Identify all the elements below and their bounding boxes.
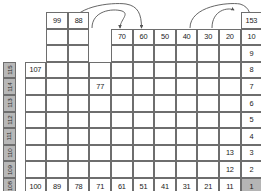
side-label-110[interactable]: 110 [3, 145, 16, 162]
grid-cell-blank[interactable] [176, 78, 198, 95]
grid-cell-blank[interactable] [176, 128, 198, 145]
grid-cell-blank[interactable] [25, 95, 47, 112]
grid-cell-blank[interactable] [89, 161, 111, 178]
cell-11[interactable]: 11 [219, 178, 241, 191]
grid-cell-blank[interactable] [154, 161, 176, 178]
grid-cell-blank[interactable] [133, 128, 155, 145]
grid-cell-blank[interactable] [133, 161, 155, 178]
side-label-109[interactable]: 109 [3, 161, 16, 178]
grid-cell-blank[interactable] [68, 161, 90, 178]
grid-cell-blank[interactable] [197, 95, 219, 112]
grid-cell-blank[interactable] [133, 78, 155, 95]
grid-cell-blank[interactable] [111, 145, 133, 162]
grid-cell-blank[interactable] [133, 145, 155, 162]
grid-cell-blank[interactable] [68, 62, 90, 79]
grid-cell-blank[interactable] [89, 128, 111, 145]
cell-88[interactable]: 88 [68, 12, 90, 29]
cell-20[interactable]: 20 [219, 29, 241, 46]
grid-cell-blank[interactable] [89, 95, 111, 112]
grid-cell-blank[interactable] [89, 112, 111, 129]
cell-71[interactable]: 71 [89, 178, 111, 191]
grid-cell-blank[interactable] [197, 112, 219, 129]
grid-cell-blank[interactable] [89, 62, 111, 79]
cell-8[interactable]: 8 [241, 62, 261, 79]
cell-9[interactable]: 9 [241, 45, 261, 62]
grid-cell-blank[interactable] [133, 112, 155, 129]
grid-cell-blank[interactable] [111, 95, 133, 112]
grid-cell-blank[interactable] [25, 145, 47, 162]
grid-cell-blank[interactable] [68, 128, 90, 145]
cell-blank-c2r1[interactable] [46, 29, 68, 46]
cell-100[interactable]: 100 [25, 178, 47, 191]
grid-cell-blank[interactable] [46, 62, 68, 79]
side-label-112[interactable]: 112 [3, 112, 16, 129]
cell-blank-c5r2[interactable] [111, 45, 133, 62]
cell-31[interactable]: 31 [176, 178, 198, 191]
grid-cell-blank[interactable] [219, 112, 241, 129]
grid-cell-blank[interactable] [46, 78, 68, 95]
grid-cell-blank[interactable] [176, 112, 198, 129]
cell-40[interactable]: 40 [176, 29, 198, 46]
cell-blank-c6r2[interactable] [133, 45, 155, 62]
grid-cell-blank[interactable] [25, 161, 47, 178]
grid-cell-blank[interactable] [154, 78, 176, 95]
grid-cell-blank[interactable] [197, 161, 219, 178]
cell-70[interactable]: 70 [111, 29, 133, 46]
grid-cell-blank[interactable] [89, 145, 111, 162]
grid-cell-blank[interactable] [219, 128, 241, 145]
side-label-113[interactable]: 113 [3, 95, 16, 112]
grid-cell-blank[interactable] [46, 128, 68, 145]
grid-cell-blank[interactable] [197, 78, 219, 95]
grid-cell-blank[interactable] [219, 62, 241, 79]
grid-cell-blank[interactable] [197, 128, 219, 145]
cell-30[interactable]: 30 [197, 29, 219, 46]
cell-60[interactable]: 60 [133, 29, 155, 46]
grid-cell-blank[interactable] [46, 95, 68, 112]
cell-61[interactable]: 61 [111, 178, 133, 191]
cell-77[interactable]: 77 [89, 78, 111, 95]
grid-cell-blank[interactable] [68, 78, 90, 95]
grid-cell-blank[interactable] [154, 145, 176, 162]
grid-cell-blank[interactable] [154, 112, 176, 129]
cell-blank-c10r2[interactable] [219, 45, 241, 62]
grid-cell-blank[interactable] [154, 62, 176, 79]
grid-cell-blank[interactable] [68, 95, 90, 112]
grid-cell-blank[interactable] [68, 112, 90, 129]
grid-cell-blank[interactable] [154, 128, 176, 145]
cell-blank-c3r1[interactable] [68, 29, 90, 46]
cell-blank-c9r2[interactable] [197, 45, 219, 62]
grid-cell-blank[interactable] [25, 112, 47, 129]
grid-cell-blank[interactable] [68, 145, 90, 162]
cell-blank-c2r2[interactable] [46, 45, 68, 62]
grid-cell-blank[interactable] [176, 62, 198, 79]
grid-cell-blank[interactable] [133, 95, 155, 112]
cell-3[interactable]: 3 [241, 145, 261, 162]
cell-2[interactable]: 2 [241, 161, 261, 178]
side-label-114[interactable]: 114 [3, 78, 16, 95]
grid-cell-blank[interactable] [219, 78, 241, 95]
grid-cell-blank[interactable] [46, 161, 68, 178]
cell-10[interactable]: 10 [241, 29, 261, 46]
grid-cell-blank[interactable] [154, 95, 176, 112]
cell-blank-c3r2[interactable] [68, 45, 90, 62]
grid-cell-blank[interactable] [219, 95, 241, 112]
grid-cell-blank[interactable] [25, 128, 47, 145]
grid-cell-blank[interactable] [46, 145, 68, 162]
cell-50[interactable]: 50 [154, 29, 176, 46]
cell-13[interactable]: 13 [219, 145, 241, 162]
cell-blank-c7r2[interactable] [154, 45, 176, 62]
cell-41[interactable]: 41 [154, 178, 176, 191]
grid-cell-blank[interactable] [111, 128, 133, 145]
cell-89[interactable]: 89 [46, 178, 68, 191]
cell-6[interactable]: 6 [241, 95, 261, 112]
grid-cell-blank[interactable] [111, 112, 133, 129]
cell-21[interactable]: 21 [197, 178, 219, 191]
cell-4[interactable]: 4 [241, 128, 261, 145]
cell-1[interactable]: 1 [241, 178, 261, 191]
cell-5[interactable]: 5 [241, 112, 261, 129]
grid-cell-blank[interactable] [176, 95, 198, 112]
grid-cell-blank[interactable] [25, 78, 47, 95]
grid-cell-blank[interactable] [176, 145, 198, 162]
grid-cell-blank[interactable] [46, 112, 68, 129]
grid-cell-blank[interactable] [197, 145, 219, 162]
